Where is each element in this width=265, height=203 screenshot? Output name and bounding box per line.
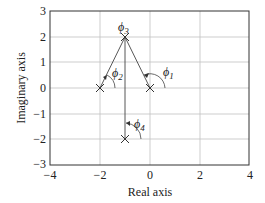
svg-text:0: 0: [40, 81, 46, 95]
angle-arrowheads: [103, 73, 149, 126]
svg-text:2: 2: [40, 30, 46, 44]
svg-text:−4: −4: [44, 168, 57, 182]
angle-label-phi1: ϕ1: [163, 65, 174, 81]
angle-label-phi4: ϕ4: [134, 117, 145, 133]
svg-text:4: 4: [247, 168, 253, 182]
svg-text:−1: −1: [33, 107, 46, 121]
svg-text:0: 0: [147, 168, 153, 182]
svg-text:3: 3: [40, 4, 46, 18]
angle-label-phi2: ϕ2: [112, 66, 123, 82]
y-tick-labels: 3 2 1 0 −1 −2 −3: [33, 4, 46, 171]
x-axis-label: Real axis: [128, 185, 173, 199]
svg-text:2: 2: [197, 168, 203, 182]
root-locus-chart: ϕ1 ϕ2 ϕ3 ϕ4 3 2 1 0 −1 −2 −3 −4 −2 0 2 4…: [0, 0, 265, 203]
svg-text:1: 1: [40, 55, 46, 69]
svg-text:−2: −2: [33, 132, 46, 146]
x-tick-labels: −4 −2 0 2 4: [44, 168, 253, 182]
y-axis-label: Imaginary axis: [14, 52, 28, 124]
angle-label-phi3: ϕ3: [118, 20, 129, 36]
svg-text:−2: −2: [94, 168, 107, 182]
